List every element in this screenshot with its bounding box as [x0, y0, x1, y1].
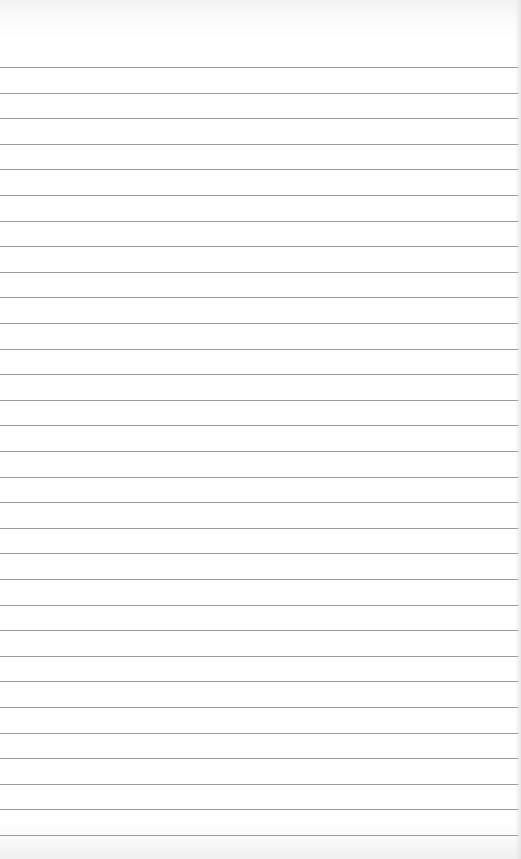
ruled-line: [0, 169, 519, 170]
ruled-line: [0, 221, 519, 222]
ruled-line: [0, 707, 519, 708]
ruled-line: [0, 349, 519, 350]
ruled-line: [0, 656, 519, 657]
ruled-line: [0, 374, 519, 375]
ruled-line: [0, 579, 519, 580]
ruled-line: [0, 272, 519, 273]
ruled-line: [0, 477, 519, 478]
ruled-line: [0, 118, 519, 119]
ruled-line: [0, 400, 519, 401]
ruled-line: [0, 733, 519, 734]
ruled-line: [0, 605, 519, 606]
ruled-line: [0, 835, 519, 836]
ruled-line: [0, 784, 519, 785]
ruled-line: [0, 553, 519, 554]
ruled-line: [0, 246, 519, 247]
ruled-line: [0, 502, 519, 503]
ruled-line: [0, 758, 519, 759]
lined-paper-sheet: [0, 0, 521, 859]
ruled-line: [0, 323, 519, 324]
paper-edge-shadow: [515, 0, 521, 859]
ruled-line: [0, 67, 519, 68]
ruled-line: [0, 93, 519, 94]
ruled-line: [0, 425, 519, 426]
ruled-line: [0, 195, 519, 196]
ruled-line: [0, 451, 519, 452]
ruled-line: [0, 144, 519, 145]
ruled-line: [0, 681, 519, 682]
ruled-line: [0, 528, 519, 529]
ruled-line: [0, 809, 519, 810]
ruled-line: [0, 630, 519, 631]
ruled-line: [0, 297, 519, 298]
